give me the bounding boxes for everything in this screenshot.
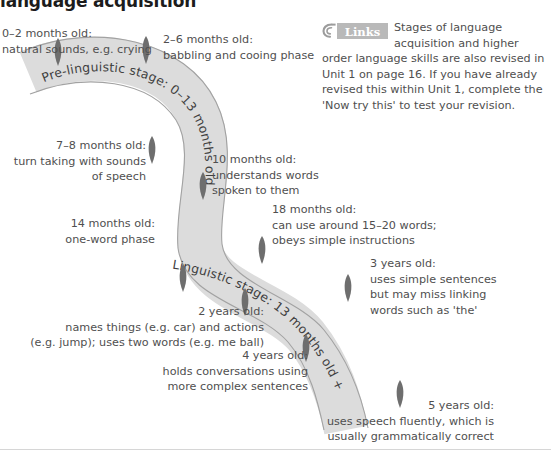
callout-line: one-word phase (65, 232, 155, 248)
callout-line: spoken to them (212, 183, 319, 199)
links-badge: Links (322, 21, 388, 40)
callout-age-5-years: 5 years old:uses speech fluently, which … (327, 398, 494, 445)
callout-line: usually grammatically correct (327, 429, 494, 445)
callout-line: 10 months old: (212, 152, 319, 168)
links-side-note: Links Stages of language acquisition and… (322, 20, 550, 114)
callout-line: 18 months old: (272, 202, 437, 218)
callout-line: natural sounds, e.g. crying (2, 42, 152, 58)
callout-line: 2–6 months old: (163, 32, 314, 48)
callout-line: more complex sentences (163, 379, 308, 395)
callout-line: names things (e.g. car) and actions (30, 320, 264, 336)
callout-line: 7–8 months old: (14, 138, 146, 154)
arrow-marker-age-18-months (259, 236, 266, 264)
callout-age-3-years: 3 years old:uses simple sentencesbut may… (370, 256, 497, 318)
callout-line: holds conversations using (163, 364, 308, 380)
callout-age-4-years: 4 years old:holds conversations usingmor… (163, 348, 308, 395)
callout-line: uses simple sentences (370, 272, 497, 288)
callout-line: 14 months old: (65, 216, 155, 232)
arrow-marker-age-7-8-months (149, 136, 156, 164)
callout-age-2-years: 2 years old:names things (e.g. car) and … (30, 304, 264, 351)
callout-age-7-8-months: 7–8 months old:turn taking with soundsof… (14, 138, 146, 185)
callout-line: but may miss linking (370, 287, 497, 303)
callout-age-18-months: 18 months old:can use around 15–20 words… (272, 202, 437, 249)
callout-line: 2 years old: (30, 304, 264, 320)
callout-line: uses speech fluently, which is (327, 414, 494, 430)
callout-age-10-months: 10 months old:understands wordsspoken to… (212, 152, 319, 199)
callout-line: words such as 'the' (370, 303, 497, 319)
callout-line: 0–2 months old: (2, 26, 152, 42)
callout-age-14-months: 14 months old:one-word phase (65, 216, 155, 247)
callout-line: 4 years old: (163, 348, 308, 364)
callout-line: of speech (14, 169, 146, 185)
links-badge-label: Links (345, 25, 380, 39)
callout-line: 3 years old: (370, 256, 497, 272)
callout-line: obeys simple instructions (272, 233, 437, 249)
callout-line: can use around 15–20 words; (272, 218, 437, 234)
arrow-marker-age-3-years (345, 274, 352, 302)
chain-link-icon (324, 25, 336, 37)
callout-line: understands words (212, 168, 319, 184)
arrow-marker-age-14-months (157, 234, 164, 260)
callout-line: turn taking with sounds (14, 154, 146, 170)
diagram-page: language acquisition Pre-linguistic stag… (0, 0, 551, 450)
callout-line: babbling and cooing phase (163, 48, 314, 64)
callout-line: 5 years old: (327, 398, 494, 414)
callout-age-2-6-months: 2–6 months old:babbling and cooing phase (163, 32, 314, 63)
callout-age-0-2-months: 0–2 months old:natural sounds, e.g. cryi… (2, 26, 152, 57)
